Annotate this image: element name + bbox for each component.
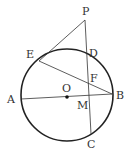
label-a: A (6, 93, 16, 106)
segment-eb (39, 61, 112, 94)
label-e: E (26, 48, 34, 61)
segment-pe (39, 20, 85, 61)
label-f: F (90, 72, 98, 85)
label-m: M (77, 99, 88, 112)
geometry-diagram: PDEFAOMBC (0, 0, 133, 154)
label-b: B (116, 89, 124, 102)
label-o: O (62, 82, 71, 95)
center-dot (65, 95, 69, 99)
label-p: P (82, 5, 90, 18)
label-d: D (89, 47, 98, 60)
label-c: C (87, 138, 95, 151)
